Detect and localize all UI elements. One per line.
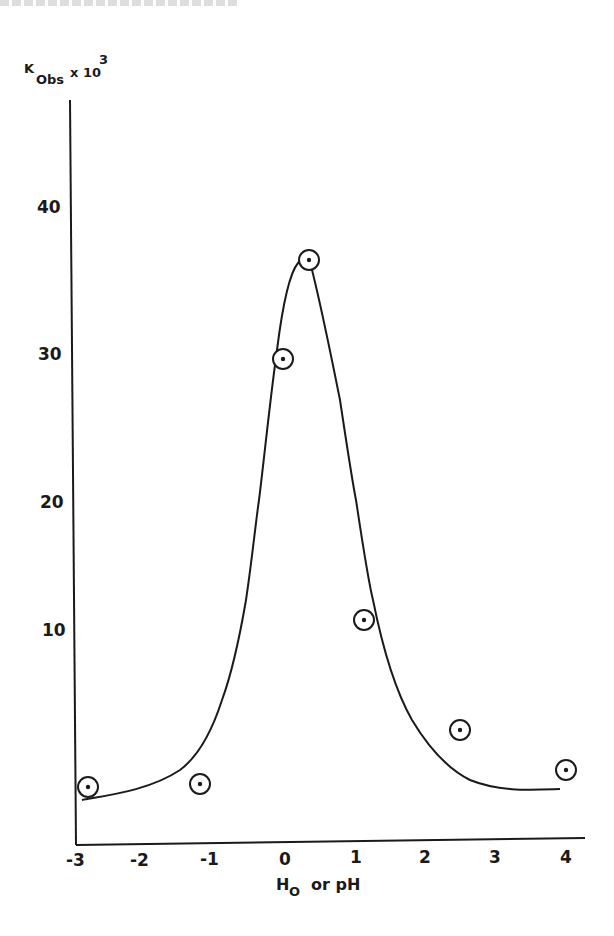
y-tick-40: 40	[37, 197, 61, 217]
x-tick--2: -2	[130, 850, 149, 870]
x-axis	[76, 838, 585, 845]
data-point	[273, 349, 293, 369]
svg-text:3: 3	[99, 52, 108, 67]
x-tick-1: 1	[350, 847, 362, 867]
y-tick-20: 20	[40, 492, 64, 512]
svg-text:or pH: or pH	[311, 875, 360, 894]
data-point	[190, 774, 210, 794]
svg-text:O: O	[289, 884, 300, 899]
y-axis-title: K Obs x 10 3	[24, 52, 108, 87]
svg-text:H: H	[276, 875, 289, 894]
y-tick-10: 10	[42, 620, 66, 640]
data-point	[78, 777, 98, 797]
svg-text:K: K	[24, 61, 35, 76]
x-axis-title: H O or pH	[276, 875, 360, 899]
x-tick-3: 3	[489, 847, 501, 867]
y-tick-labels: 40 30 20 10	[37, 197, 66, 640]
x-tick--1: -1	[200, 849, 219, 869]
chart: K Obs x 10 3 40 30 20 10 -3 -2 -1 0 1 2 …	[0, 0, 614, 936]
x-tick-0: 0	[279, 849, 291, 869]
svg-text:Obs: Obs	[36, 72, 64, 87]
data-point	[556, 760, 576, 780]
x-tick--3: -3	[66, 850, 85, 870]
y-axis	[70, 100, 76, 845]
x-tick-4: 4	[560, 847, 572, 867]
fitted-curve	[82, 260, 560, 800]
data-point	[354, 610, 374, 630]
data-point	[450, 720, 470, 740]
x-tick-labels: -3 -2 -1 0 1 2 3 4	[66, 847, 572, 870]
x-tick-2: 2	[419, 847, 431, 867]
data-point	[299, 250, 319, 270]
y-tick-30: 30	[38, 344, 62, 364]
svg-text:x 10: x 10	[70, 65, 101, 80]
